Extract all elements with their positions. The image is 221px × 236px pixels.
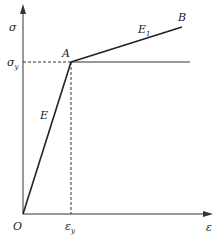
origin-label: O: [13, 220, 22, 233]
x-axis-label: ε: [206, 221, 212, 234]
hardening-modulus-label: E1: [137, 23, 151, 38]
x-axis-arrow-icon: [203, 211, 213, 217]
axes: [20, 4, 213, 217]
elastic-modulus-label: E: [39, 109, 48, 122]
yield-strain-label: εy: [65, 220, 76, 235]
hardening-segment: [71, 27, 182, 62]
y-axis-label: σ: [9, 21, 17, 34]
y-axis-arrow-icon: [20, 4, 26, 14]
elastic-segment: [23, 62, 71, 214]
stress-strain-diagram: σ ε O σy εy A B E E1: [0, 0, 221, 236]
point-b-label: B: [177, 11, 186, 24]
yield-stress-label: σy: [7, 56, 20, 71]
point-a-label: A: [61, 47, 70, 60]
